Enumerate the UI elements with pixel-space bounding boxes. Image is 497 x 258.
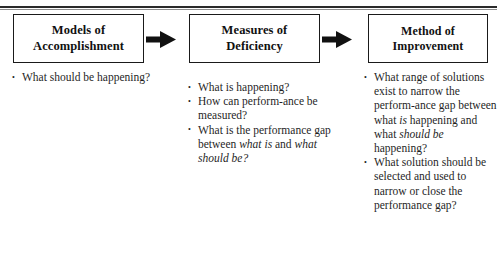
- stage-title-line-1: Models of: [52, 23, 105, 37]
- arrow-stage2-to-stage3-icon: [322, 31, 352, 48]
- bullet-text: and: [272, 138, 294, 150]
- stage-title: Method of Improvement: [393, 24, 464, 54]
- arrow-stage1-to-stage2-icon: [146, 31, 176, 48]
- bullet-text-emphasis: is: [399, 114, 407, 126]
- bullet-text: What should be happening?: [22, 71, 150, 83]
- list-item: How can perform-­ance be measured?: [188, 94, 336, 122]
- flow-diagram: Models of Accomplishment What should be …: [0, 0, 497, 258]
- page-top-rule: [0, 6, 497, 8]
- stage-title-line-2: Accomplishment: [33, 39, 124, 53]
- stage-box-models-of-accomplishment: Models of Accomplishment: [13, 14, 144, 63]
- list-item: What should be happening?: [12, 70, 158, 84]
- bullet-text: What solution should be selected and use…: [374, 156, 486, 211]
- bullet-text: happening?: [374, 142, 427, 154]
- bullet-text: How can perform-­ance be measured?: [198, 95, 318, 121]
- bullet-text-emphasis: what is: [239, 138, 272, 150]
- stage-title-line-1: Method of: [401, 24, 455, 38]
- stage-title-line-2: Deficiency: [226, 39, 283, 53]
- bullet-list-models-of-accomplishment: What should be happening?: [12, 70, 158, 84]
- bullet-text: What is happening?: [198, 81, 289, 93]
- bullet-text-emphasis: should be: [399, 128, 443, 140]
- bullet-list-measures-of-deficiency: What is happening? How can perform-­ance…: [188, 80, 336, 165]
- stage-title: Models of Accomplishment: [33, 23, 124, 54]
- stage-box-measures-of-deficiency: Measures of Deficiency: [189, 14, 320, 63]
- stage-box-method-of-improvement: Method of Improvement: [368, 14, 488, 63]
- stage-title: Measures of Deficiency: [222, 23, 288, 54]
- list-item: What is happening?: [188, 80, 336, 94]
- page-top-rule-secondary: [0, 9, 497, 10]
- stage-title-line-1: Measures of: [222, 23, 288, 37]
- list-item: What solution should be selected and use…: [364, 155, 497, 212]
- list-item: What range of solutions exist to narrow …: [364, 70, 497, 155]
- list-item: What is the performance gap between what…: [188, 123, 336, 166]
- stage-title-line-2: Improvement: [393, 39, 464, 53]
- bullet-list-method-of-improvement: What range of solutions exist to narrow …: [364, 70, 497, 212]
